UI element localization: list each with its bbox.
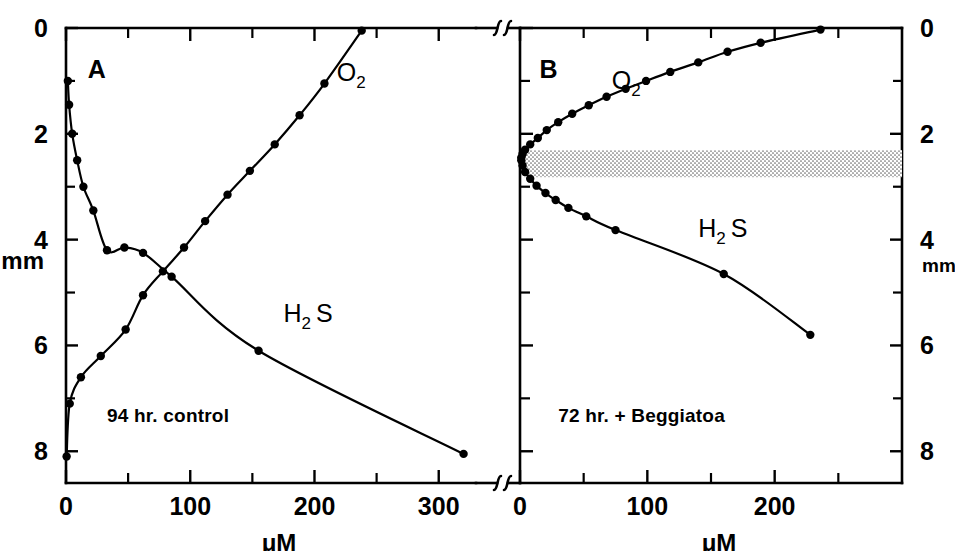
data-point-o2 — [756, 39, 764, 47]
data-point-h2s — [89, 206, 97, 214]
data-point-o2 — [62, 452, 70, 460]
x-tick-label: 200 — [294, 492, 336, 520]
panel-annotation: 72 hr. + Beggiatoa — [558, 405, 725, 426]
data-point-h2s — [459, 450, 467, 458]
data-point-h2s — [139, 249, 147, 257]
x-axis-title: μM — [262, 529, 297, 551]
data-point-h2s — [79, 183, 87, 191]
data-point-o2 — [723, 48, 731, 56]
x-tick-label: 100 — [626, 492, 668, 520]
y-tick-label: 2 — [34, 120, 48, 148]
series-label-subscript: 2 — [356, 73, 365, 92]
x-tick-label: 300 — [418, 492, 460, 520]
data-point-h2s — [64, 77, 72, 85]
x-tick-label: 100 — [169, 492, 211, 520]
y-tick-label: 0 — [920, 14, 934, 42]
data-point-h2s — [720, 270, 728, 278]
series-curve-h2s — [521, 160, 810, 335]
series-curve-o2 — [521, 30, 820, 158]
series-label-main: H — [283, 299, 301, 327]
x-tick-label: 200 — [754, 492, 796, 520]
series-label-main: O — [612, 66, 631, 94]
panel-letter: B — [540, 55, 558, 83]
series-label-h2s: H2S — [283, 299, 332, 333]
y-tick-label: 8 — [34, 437, 48, 465]
data-point-o2 — [121, 325, 129, 333]
data-point-o2 — [320, 79, 328, 87]
x-tick-label: 0 — [59, 492, 73, 520]
data-point-o2 — [816, 25, 824, 33]
data-point-o2 — [180, 243, 188, 251]
series-label-tail: S — [316, 299, 333, 327]
panel-letter: A — [88, 55, 106, 83]
data-point-o2 — [77, 373, 85, 381]
data-point-h2s — [68, 130, 76, 138]
y-tick-label: 2 — [920, 120, 934, 148]
data-point-o2 — [66, 399, 74, 407]
series-label-tail: S — [731, 214, 748, 242]
series-label-main: H — [698, 214, 716, 242]
data-point-o2 — [666, 68, 674, 76]
y-axis-title: mm — [922, 255, 955, 276]
data-point-h2s — [73, 156, 81, 164]
data-point-h2s — [564, 204, 572, 212]
data-point-o2 — [358, 26, 366, 34]
axis-break-marks — [476, 21, 520, 490]
x-tick-label: 0 — [513, 492, 527, 520]
data-point-o2 — [602, 93, 610, 101]
axis-break-icon — [494, 476, 511, 490]
data-point-h2s — [521, 168, 529, 176]
figure-svg: 02468mm0100200300μMA94 hr. controlO2H2S … — [0, 0, 955, 551]
series-label-subscript: 2 — [716, 229, 725, 248]
data-point-h2s — [806, 331, 814, 339]
data-point-h2s — [254, 347, 262, 355]
data-point-o2 — [271, 140, 279, 148]
data-point-h2s — [582, 212, 590, 220]
data-point-o2 — [223, 190, 231, 198]
data-point-h2s — [526, 175, 534, 183]
data-point-h2s — [120, 243, 128, 251]
data-point-o2 — [246, 167, 254, 175]
x-axis-title: μM — [702, 529, 737, 551]
axis-break-icon — [494, 21, 511, 35]
data-point-o2 — [139, 291, 147, 299]
y-tick-label: 6 — [920, 331, 934, 359]
data-point-o2 — [554, 118, 562, 126]
data-point-h2s — [167, 272, 175, 280]
data-point-o2 — [295, 111, 303, 119]
series-label-subscript: 2 — [631, 81, 640, 100]
y-tick-label: 0 — [34, 14, 48, 42]
data-point-o2 — [642, 77, 650, 85]
series-curve-o2 — [67, 31, 362, 457]
data-point-h2s — [103, 246, 111, 254]
shaded-band — [524, 150, 902, 177]
data-point-h2s — [611, 226, 619, 234]
panel-annotation: 94 hr. control — [107, 405, 229, 426]
data-point-h2s — [551, 196, 559, 204]
series-label-main: O — [337, 58, 356, 86]
data-point-o2 — [543, 126, 551, 134]
data-point-o2 — [534, 134, 542, 142]
data-point-o2 — [585, 101, 593, 109]
series-label-subscript: 2 — [301, 314, 310, 333]
series-label-h2s: H2S — [698, 214, 747, 248]
figure-container: 02468mm0100200300μMA94 hr. controlO2H2S … — [0, 0, 955, 551]
series-curve-h2s — [68, 81, 464, 454]
data-point-h2s — [532, 181, 540, 189]
data-point-o2 — [97, 352, 105, 360]
series-label-o2: O2 — [337, 58, 366, 92]
y-axis-title: mm — [1, 247, 44, 274]
data-point-o2 — [201, 217, 209, 225]
data-point-o2 — [526, 140, 534, 148]
data-point-h2s — [65, 101, 73, 109]
y-tick-label: 8 — [920, 437, 934, 465]
panel-b: 02468mm0100200μMB72 hr. + BeggiatoaO2H2S — [513, 14, 955, 551]
panel-a: 02468mm0100200300μMA94 hr. controlO2H2S — [1, 14, 476, 551]
data-point-o2 — [568, 110, 576, 118]
y-tick-label: 4 — [920, 226, 934, 254]
data-point-o2 — [694, 58, 702, 66]
data-point-h2s — [541, 189, 549, 197]
series-label-o2: O2 — [612, 66, 641, 100]
y-tick-label: 6 — [34, 331, 48, 359]
